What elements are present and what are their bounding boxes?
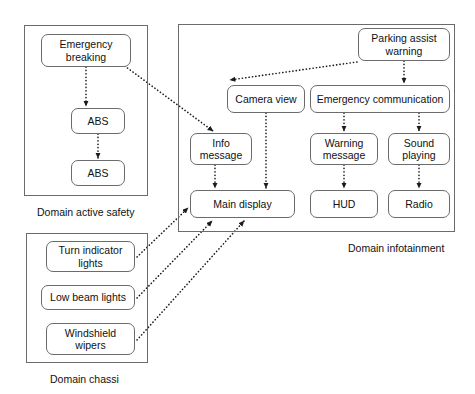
node-label-info-message: Info message: [200, 137, 243, 162]
node-label-windshield-wipers: Windshield wipers: [65, 327, 116, 352]
edge-windshield-wipers-to-main-display: [137, 221, 244, 340]
node-camera-view[interactable]: Camera view: [227, 85, 305, 113]
node-label-camera-view: Camera view: [235, 93, 296, 106]
node-label-main-display: Main display: [213, 198, 271, 211]
node-main-display[interactable]: Main display: [190, 190, 295, 218]
node-abs-1[interactable]: ABS: [71, 108, 125, 134]
edge-low-beam-to-main-display: [137, 221, 212, 298]
node-warning-message[interactable]: Warning message: [310, 133, 378, 165]
node-sound-playing[interactable]: Sound playing: [388, 133, 450, 165]
node-label-abs-2: ABS: [87, 167, 108, 180]
node-label-abs-1: ABS: [87, 115, 108, 128]
node-label-hud: HUD: [333, 198, 356, 211]
node-low-beam-lights[interactable]: Low beam lights: [41, 285, 135, 310]
node-label-emergency-breaking: Emergency breaking: [59, 38, 112, 63]
diagram-canvas: Domain active safetyDomain chassiDomain …: [0, 0, 475, 394]
node-label-radio: Radio: [405, 198, 432, 211]
node-label-parking-assist-warning: Parking assist warning: [371, 32, 436, 57]
node-label-sound-playing: Sound playing: [402, 137, 435, 162]
node-label-warning-message: Warning message: [323, 137, 366, 162]
node-abs-2[interactable]: ABS: [71, 160, 125, 186]
node-label-turn-indicator-lights: Turn indicator lights: [59, 244, 123, 269]
domain-label-active-safety: Domain active safety: [37, 206, 134, 218]
node-emergency-communication[interactable]: Emergency communication: [310, 85, 450, 113]
domain-label-infotainment: Domain infotainment: [348, 242, 444, 254]
node-windshield-wipers[interactable]: Windshield wipers: [46, 323, 135, 355]
node-hud[interactable]: HUD: [310, 190, 378, 218]
node-info-message[interactable]: Info message: [190, 133, 252, 165]
domain-label-chassi: Domain chassi: [50, 373, 119, 385]
node-label-low-beam-lights: Low beam lights: [50, 291, 126, 304]
node-label-emergency-communication: Emergency communication: [317, 93, 444, 106]
node-parking-assist-warning[interactable]: Parking assist warning: [358, 28, 450, 61]
node-emergency-breaking[interactable]: Emergency breaking: [41, 34, 131, 67]
node-turn-indicator-lights[interactable]: Turn indicator lights: [46, 241, 135, 272]
node-radio[interactable]: Radio: [388, 190, 450, 218]
